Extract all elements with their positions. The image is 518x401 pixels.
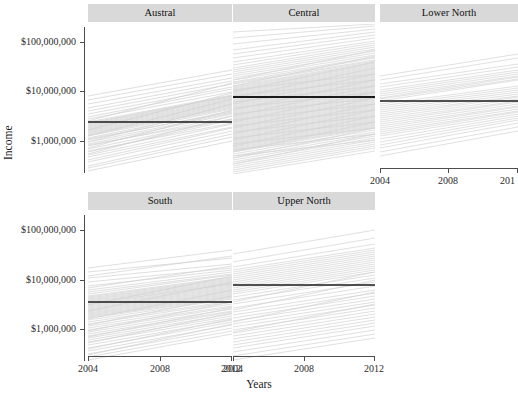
y-axis-label-top-1m: $1,000,000 (0, 135, 76, 146)
x-axis-tick-upper-north-2008 (304, 357, 305, 361)
x-axis-label-lower-north-2012: 201 (500, 175, 518, 186)
y-axis-tick-bottom-1m (80, 329, 84, 330)
x-axis-tick-south-2004 (88, 357, 89, 361)
x-axis-title: Years (0, 378, 518, 390)
spaghetti-lines-upper-north (233, 212, 375, 362)
x-axis-label-upper-north-2012: 2012 (356, 363, 392, 374)
panel-title-south: South (88, 192, 232, 210)
x-axis-tick-lower-north-2004 (380, 169, 381, 173)
panel-title-lower-north: Lower North (380, 4, 518, 22)
plot-area-upper-north (233, 212, 375, 362)
x-axis-tick-upper-north-2012 (374, 357, 375, 361)
y-axis-tick-bottom-10m (80, 280, 84, 281)
y-axis-label-top-10m: $10,000,000 (0, 85, 76, 96)
y-axis-label-bottom-1m: $1,000,000 (0, 323, 76, 334)
x-axis-tick-south-2008 (160, 357, 161, 361)
y-axis-tick-top-10m (80, 91, 84, 92)
x-axis-label-south-2008: 2008 (142, 363, 178, 374)
x-axis-spine-lower-north (380, 168, 518, 169)
x-axis-label-lower-north-2004: 2004 (362, 175, 398, 186)
x-axis-tick-upper-north-2004 (233, 357, 234, 361)
x-axis-label-south-2004: 2004 (70, 363, 106, 374)
y-axis-label-bottom-10m: $10,000,000 (0, 274, 76, 285)
spaghetti-lines-austral (85, 24, 232, 174)
panel-title-austral: Austral (88, 4, 232, 22)
y-axis-label-top-100m: $100,000,000 (0, 36, 76, 47)
y-axis-tick-top-100m (80, 42, 84, 43)
plot-area-south (85, 212, 232, 362)
chart-root: Income $100,000,000 $10,000,000 $1,000,0… (0, 0, 518, 401)
plot-area-austral (85, 24, 232, 174)
y-axis-label-bottom-100m: $100,000,000 (0, 224, 76, 235)
x-axis-tick-lower-north-2008 (448, 169, 449, 173)
panel-title-central: Central (233, 4, 375, 22)
y-axis-tick-top-1m (80, 141, 84, 142)
x-axis-label-upper-north-2008: 2008 (286, 363, 322, 374)
spaghetti-lines-central (233, 24, 375, 174)
x-axis-tick-south-2012 (231, 357, 232, 361)
plot-area-lower-north (380, 24, 518, 159)
x-axis-label-upper-north-2004: 2004 (215, 363, 251, 374)
spaghetti-lines-lower-north (380, 24, 518, 159)
y-axis-tick-bottom-100m (80, 230, 84, 231)
spaghetti-lines-south (85, 212, 232, 362)
plot-area-central (233, 24, 375, 174)
x-axis-label-lower-north-2008: 2008 (430, 175, 466, 186)
panel-title-upper-north: Upper North (233, 192, 375, 210)
